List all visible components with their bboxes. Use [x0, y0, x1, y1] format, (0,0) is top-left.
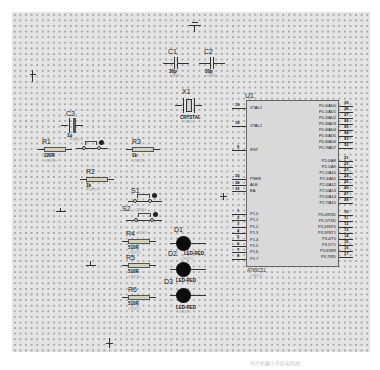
pin-21-num: 21	[344, 156, 348, 160]
pin-p15-label: P1.5	[250, 244, 258, 248]
pin-rst-label: RST	[250, 148, 258, 152]
pin-10-num: 10	[344, 210, 348, 214]
pin-p25-label: P2.5/A13	[320, 189, 336, 193]
pin-33-num: 33	[344, 137, 348, 141]
d3-text: <TEXT>	[178, 311, 191, 315]
pin-p07-label: P0.7/AD7	[319, 146, 336, 150]
pin-psen-label: PSEN	[250, 177, 261, 181]
ground-terminal-bottom[interactable]	[106, 338, 114, 350]
pin-p33-label: P3.3/INT1	[318, 231, 336, 235]
pin-6-num: 6	[237, 242, 239, 246]
led-d3[interactable]: D3 LED-RED <TEXT>	[164, 278, 210, 318]
d2-text: <TEXT>	[180, 258, 193, 262]
pin-31-num: 31	[235, 187, 239, 191]
pin-34-num: 34	[344, 131, 348, 135]
crystal-x1[interactable]: X1 CRYSTAL <TEXT>	[175, 88, 215, 128]
s1-ref: S1	[131, 187, 140, 194]
pin-p14-label: P1.4	[250, 238, 258, 242]
pin-11-num: 11	[344, 216, 348, 220]
pin-p30-label: P3.0/RXD	[318, 213, 336, 217]
pin-1-num: 1	[237, 209, 239, 213]
pin-p34-label: P3.4/T0	[322, 237, 336, 241]
pin-38-num: 38	[344, 107, 348, 111]
pin-19-num: 19	[235, 103, 239, 107]
r1-value: 220R	[44, 154, 55, 159]
switch-s2[interactable]: S2 <TEXT>	[122, 205, 162, 223]
s2-ref: S2	[122, 205, 131, 212]
pin-p20-label: P2.0/A8	[322, 159, 336, 163]
resistor-r5[interactable]: R5 510R <TEXT>	[122, 254, 156, 282]
pin-22-num: 22	[344, 162, 348, 166]
r3-text: <TEXT>	[132, 160, 145, 164]
r4-value: 510R	[128, 246, 139, 251]
c1-text: <TEXT>	[169, 75, 182, 79]
pin-3-num: 3	[237, 222, 239, 226]
pin-4-num: 4	[237, 229, 239, 233]
capacitor-c2[interactable]: C2 30p <TEXT>	[199, 48, 229, 80]
power-terminal-left[interactable]	[30, 70, 36, 82]
pin-39-num: 39	[344, 101, 348, 105]
switch-s1[interactable]: S1	[128, 187, 162, 205]
ground-terminal-2[interactable]	[86, 261, 96, 269]
pin-35-num: 35	[344, 125, 348, 129]
r6-ref: R6	[128, 286, 137, 293]
resistor-r3[interactable]: R3 1k <TEXT>	[126, 138, 160, 170]
r6-value: 510R	[128, 302, 139, 307]
pin-p01-label: P0.1/AD1	[319, 110, 336, 114]
x1-ref: X1	[182, 88, 191, 95]
pin-p26-label: P2.6/A14	[320, 195, 336, 199]
pin-p10-label: P1.0	[250, 212, 258, 216]
microcontroller-u1[interactable]: XTAL1 XTAL2 RST PSEN ALE EA P1.0 P1.1 P1…	[246, 100, 339, 267]
c3-ref: C3	[66, 110, 75, 117]
d1-led-body	[176, 236, 191, 251]
resistor-r1[interactable]: R1 220R <TEXT>	[38, 138, 72, 170]
resistor-r2[interactable]: R2 1k <TEXT>	[80, 168, 114, 200]
pin-27-num: 27	[344, 192, 348, 196]
pin-2-num: 2	[237, 216, 239, 220]
pin-5-num: 5	[237, 235, 239, 239]
pin-p36-label: P3.6/WR	[320, 249, 336, 253]
ground-terminal-top[interactable]	[189, 22, 201, 32]
pin-p17-label: P1.7	[250, 257, 258, 261]
pin-ea-label: EA	[250, 189, 255, 193]
pin-p21-label: P2.1/A9	[322, 165, 336, 169]
pin-25-num: 25	[344, 180, 348, 184]
pin-p00-label: P0.0/AD0	[319, 104, 336, 108]
c1-ref: C1	[168, 48, 177, 55]
pin-16-num: 16	[344, 246, 348, 250]
pin-p37-label: P3.7/RD	[321, 255, 336, 259]
junction-marker[interactable]	[220, 193, 227, 200]
r2-text: <TEXT>	[86, 189, 99, 193]
pin-9-num: 9	[237, 145, 239, 149]
resistor-r6[interactable]: R6 510R <TEXT>	[122, 286, 156, 314]
d2-ref: D2	[168, 250, 177, 257]
u1-part: AT89C51	[247, 269, 266, 274]
d3-led-body	[176, 288, 191, 303]
pin-12-num: 12	[344, 222, 348, 226]
r3-value: 1k	[132, 154, 137, 159]
pin-37-num: 37	[344, 113, 348, 117]
pin-24-num: 24	[344, 174, 348, 178]
capacitor-c1[interactable]: C1 30p <TEXT>	[163, 48, 193, 80]
reset-switch[interactable]	[76, 140, 108, 154]
r2-ref: R2	[86, 168, 95, 175]
d2-led-body	[176, 262, 191, 277]
ground-terminal-1[interactable]	[56, 208, 66, 216]
r5-text: <TEXT>	[128, 276, 141, 280]
pin-p11-label: P1.1	[250, 218, 258, 222]
pin-xtal2-label: XTAL2	[250, 124, 262, 128]
pin-p32-label: P3.2/INT0	[318, 225, 336, 229]
pin-36-num: 36	[344, 119, 348, 123]
r4-text-top: <TEXT>	[136, 232, 149, 236]
d3-ref: D3	[164, 278, 173, 285]
pin-p35-label: P3.5/T1	[322, 243, 336, 247]
pin-28-num: 28	[344, 198, 348, 202]
c2-ref: C2	[204, 48, 213, 55]
pin-30-num: 30	[235, 181, 239, 185]
pin-7-num: 7	[237, 248, 239, 252]
pin-p03-label: P0.3/AD3	[319, 122, 336, 126]
pin-23-num: 23	[344, 168, 348, 172]
pin-14-num: 14	[344, 234, 348, 238]
pin-p06-label: P0.6/AD6	[319, 140, 336, 144]
pin-32-num: 32	[344, 143, 348, 147]
